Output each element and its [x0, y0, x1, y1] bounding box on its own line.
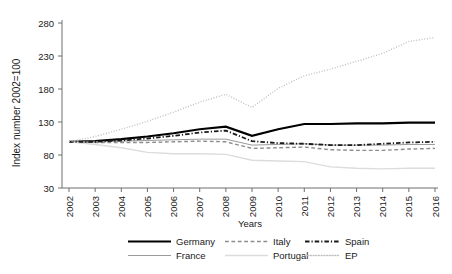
- series-line-italy: [69, 141, 435, 150]
- y-axis-title-text: Index number 2002=100: [11, 58, 22, 167]
- x-tick-label: 2014: [377, 196, 388, 217]
- x-tick-label: 2012: [325, 196, 336, 217]
- x-tick-label: 2003: [90, 196, 101, 217]
- legend-label-germany: Germany: [176, 236, 215, 247]
- legend-entry-portugal[interactable]: Portugal: [225, 250, 308, 261]
- x-tick-label: 2004: [116, 196, 127, 217]
- series-line-ep: [69, 38, 435, 142]
- y-tick-label: 180: [38, 84, 54, 95]
- x-tick-label: 2015: [403, 196, 414, 217]
- legend-entry-spain[interactable]: Spain: [305, 236, 369, 247]
- legend-label-italy: Italy: [273, 236, 291, 247]
- series-line-germany: [69, 123, 435, 142]
- y-tick-label: 280: [38, 18, 54, 29]
- x-axis-title: Years: [238, 218, 262, 229]
- legend-entry-germany[interactable]: Germany: [128, 236, 215, 247]
- chart-legend: GermanyFranceItalyPortugalSpainEP: [128, 236, 369, 261]
- x-tick-label: 2010: [273, 196, 284, 217]
- x-tick-label: 2005: [142, 196, 153, 217]
- legend-entry-ep[interactable]: EP: [305, 250, 358, 261]
- x-tick-label: 2008: [220, 196, 231, 217]
- x-tick-label: 2013: [351, 196, 362, 217]
- y-tick-label: 130: [38, 117, 54, 128]
- y-tick-label: 80: [43, 150, 54, 161]
- y-tick-label: 30: [43, 183, 54, 194]
- x-tick-label: 2006: [168, 196, 179, 217]
- x-tick-label: 2002: [64, 196, 75, 217]
- legend-label-france: France: [176, 250, 206, 261]
- y-axis-ticks: 3080130180230280: [38, 18, 62, 194]
- data-series-group: [69, 38, 435, 169]
- y-axis-title: Index number 2002=100: [11, 58, 22, 167]
- legend-label-portugal: Portugal: [273, 250, 308, 261]
- x-tick-label: 2011: [299, 196, 310, 216]
- legend-entry-france[interactable]: France: [128, 250, 206, 261]
- legend-entry-italy[interactable]: Italy: [225, 236, 291, 247]
- x-tick-label: 2007: [194, 196, 205, 217]
- chart-figure: Index number 2002=100 3080130180230280 2…: [0, 0, 452, 274]
- legend-label-spain: Spain: [345, 236, 369, 247]
- x-axis-ticks: 2002200320042005200620072008200920102011…: [64, 188, 441, 217]
- series-line-portugal: [69, 142, 435, 169]
- x-tick-label: 2009: [247, 196, 258, 217]
- chart-svg: Index number 2002=100 3080130180230280 2…: [0, 0, 452, 274]
- x-tick-label: 2016: [430, 196, 441, 217]
- y-tick-label: 230: [38, 51, 54, 62]
- legend-label-ep: EP: [345, 250, 358, 261]
